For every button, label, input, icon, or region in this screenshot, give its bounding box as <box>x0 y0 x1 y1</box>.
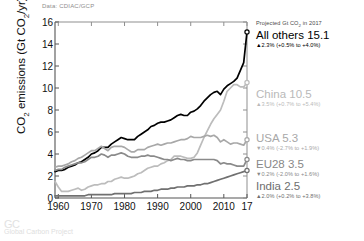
legend-item-change: ▼0.4% (-2.7% to +1.9%) <box>256 145 319 151</box>
x-tick-label: 1980 <box>113 201 135 212</box>
legend-item: EU28 3.5▼0.2% (-2.0% to +1.6%) <box>256 158 319 177</box>
x-tick-label: 2000 <box>180 201 202 212</box>
legend-item-name: India 2.5 <box>256 180 320 192</box>
legend-item: India 2.5▲2.0% (+0.2% to +3.8%) <box>256 180 320 199</box>
legend-item: Projected Gt CO2 in 2017All others 15.1▲… <box>256 20 330 48</box>
legend-item: China 10.5▲3.5% (+0.7% to +5.4%) <box>256 88 320 107</box>
legend-item-change: ▲3.5% (+0.7% to +5.4%) <box>256 101 320 107</box>
chart-figure: Data: CDIAC/GCP CO2 emissions (Gt CO2/yr… <box>0 0 364 241</box>
watermark-logo: GC Global Carbon Project <box>4 221 73 235</box>
legend-item-name: USA 5.3 <box>256 132 319 144</box>
x-tick-label: 1970 <box>80 201 102 212</box>
watermark-caption: Global Carbon Project <box>4 228 73 235</box>
legend-item-name: China 10.5 <box>256 88 320 100</box>
legend-item-change: ▲2.0% (+0.2% to +3.8%) <box>256 193 320 199</box>
x-tick-label: 1990 <box>146 201 168 212</box>
x-tick-label: 1960 <box>47 201 69 212</box>
watermark-mark: GC <box>4 221 73 228</box>
x-tick-label: 17 <box>241 201 252 212</box>
legend-item-change: ▼0.2% (-2.0% to +1.6%) <box>256 171 319 177</box>
legend-projection-note: Projected Gt CO2 in 2017 <box>256 20 330 28</box>
legend-item-change: ▲2.3% (+0.5% to +4.0%) <box>256 42 330 48</box>
legend-item: USA 5.3▼0.4% (-2.7% to +1.9%) <box>256 132 319 151</box>
legend-item-name: EU28 3.5 <box>256 158 319 170</box>
x-tick-label: 2010 <box>213 201 235 212</box>
legend-item-name: All others 15.1 <box>256 29 330 41</box>
